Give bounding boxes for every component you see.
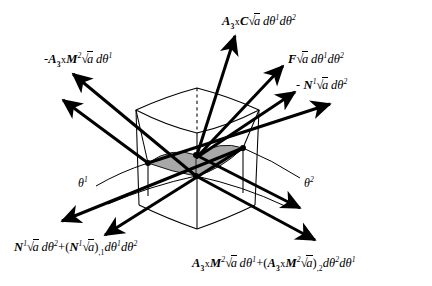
label-minus-N1-stress-resultant: - N1√a dθ2 <box>296 78 348 92</box>
element-edge-right <box>255 110 259 205</box>
vector-N1-sqrt-a-dtheta2-upper <box>62 148 243 221</box>
node-bottom <box>193 173 199 179</box>
label-F-surface-load: F√a dθ1dθ2 <box>288 52 344 66</box>
label-A3-cross-M2-incremented-moment: A3xM2√a dθ1+(A3xM2√a),2dθ2dθ1 <box>192 256 356 273</box>
vector-minus-A3-cross-M2-upper <box>73 74 196 176</box>
theta1-coordinate-curve <box>96 163 148 186</box>
figure-canvas: A3xC√a dθ1dθ2 -A3xM2√a dθ1 F√a dθ1dθ2 - … <box>0 0 432 286</box>
node-top <box>193 152 199 158</box>
vector-group-upper-left <box>63 74 196 176</box>
vector-minus-A3-cross-M2-lower <box>63 100 148 163</box>
label-theta-2: θ2 <box>304 176 314 190</box>
label-A3-cross-C-force: A3xC√a dθ1dθ2 <box>222 14 296 31</box>
node-right <box>240 145 246 151</box>
theta2-coordinate-curve <box>243 148 300 178</box>
label-N1-incremented-stress-resultant: N1√a dθ2+(N1√a),1dθ1dθ2 <box>14 240 138 257</box>
vector-A3-cross-M2-dtheta1-upper <box>196 155 300 208</box>
label-theta-1: θ1 <box>78 176 88 190</box>
theta1-coordinate-curve-outer <box>108 176 196 204</box>
node-left <box>145 160 151 166</box>
label-minus-A3-cross-M2-moment: -A3xM2√a dθ1 <box>44 52 112 69</box>
